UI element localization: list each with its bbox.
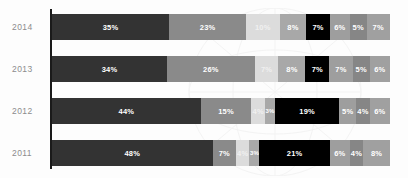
- segment-value-label: 5%: [342, 107, 353, 116]
- stacked-bar: 34%26%7%8%7%7%5%6%: [52, 56, 390, 82]
- bar-segment: 4%: [236, 140, 249, 166]
- segment-value-label: 7%: [261, 65, 272, 74]
- segment-value-label: 4%: [351, 149, 362, 158]
- stacked-bar: 48%7%4%3%21%6%4%8%: [52, 140, 390, 166]
- segment-value-label: 5%: [353, 23, 364, 32]
- category-label-2013: 2013: [12, 56, 46, 82]
- segment-value-label: 19%: [299, 107, 315, 116]
- segment-value-label: 34%: [102, 65, 118, 74]
- segment-value-label: 7%: [373, 23, 384, 32]
- bar-segment: 8%: [363, 140, 390, 166]
- segment-value-label: 4%: [237, 149, 248, 158]
- bar-segment: 15%: [201, 98, 252, 124]
- segment-value-label: 7%: [219, 149, 230, 158]
- segment-value-label: 8%: [371, 149, 382, 158]
- bar-segment: 7%: [255, 56, 279, 82]
- bar-segment: 5%: [350, 14, 367, 40]
- segment-value-label: 6%: [334, 23, 345, 32]
- bar-segment: 7%: [329, 56, 353, 82]
- bar-segment: 21%: [259, 140, 329, 166]
- segment-value-label: 21%: [287, 149, 303, 158]
- segment-value-label: 26%: [203, 65, 219, 74]
- bar-row: 201334%26%7%8%7%7%5%6%: [0, 56, 408, 82]
- segment-value-label: 48%: [125, 149, 141, 158]
- bar-segment: 48%: [52, 140, 213, 166]
- bar-segment: 5%: [353, 56, 370, 82]
- bar-segment: 4%: [251, 98, 265, 124]
- bar-segment: 3%: [265, 98, 275, 124]
- bar-row: 201148%7%4%3%21%6%4%8%: [0, 140, 408, 166]
- bar-segment: 3%: [249, 140, 259, 166]
- bar-row: 201435%23%10%8%7%6%5%7%: [0, 14, 408, 40]
- bar-segment: 4%: [350, 140, 363, 166]
- bar-segment: 5%: [339, 98, 356, 124]
- segment-value-label: 15%: [218, 107, 234, 116]
- stacked-bar-chart: 201435%23%10%8%7%6%5%7%201334%26%7%8%7%7…: [0, 0, 408, 178]
- bar-segment: 44%: [52, 98, 201, 124]
- bar-row: 201244%15%4%3%19%5%4%6%: [0, 98, 408, 124]
- segment-value-label: 6%: [334, 149, 345, 158]
- segment-value-label: 23%: [200, 23, 216, 32]
- bar-segment: 6%: [330, 14, 350, 40]
- bar-segment: 6%: [370, 56, 390, 82]
- segment-value-label: 8%: [287, 23, 298, 32]
- bar-segment: 4%: [356, 98, 370, 124]
- bar-segment: 19%: [275, 98, 339, 124]
- bar-segment: 35%: [52, 14, 169, 40]
- bar-segment: 7%: [305, 56, 329, 82]
- category-label-2014: 2014: [12, 14, 46, 40]
- bar-segment: 34%: [52, 56, 167, 82]
- segment-value-label: 3%: [265, 108, 274, 114]
- bar-segment: 7%: [306, 14, 329, 40]
- bar-segment: 8%: [278, 56, 305, 82]
- bar-segment: 7%: [213, 140, 236, 166]
- bar-segment: 8%: [280, 14, 307, 40]
- bar-segment: 6%: [330, 140, 350, 166]
- segment-value-label: 6%: [374, 65, 385, 74]
- segment-value-label: 4%: [253, 107, 264, 116]
- stacked-bar: 44%15%4%3%19%5%4%6%: [52, 98, 390, 124]
- segment-value-label: 4%: [357, 107, 368, 116]
- bar-segment: 23%: [169, 14, 246, 40]
- segment-value-label: 7%: [312, 23, 323, 32]
- bar-segment: 26%: [167, 56, 255, 82]
- segment-value-label: 35%: [103, 23, 119, 32]
- segment-value-label: 7%: [312, 65, 323, 74]
- segment-value-label: 7%: [335, 65, 346, 74]
- segment-value-label: 5%: [356, 65, 367, 74]
- segment-value-label: 44%: [119, 107, 135, 116]
- bar-segment: 7%: [367, 14, 390, 40]
- category-label-2012: 2012: [12, 98, 46, 124]
- plot-area: 201435%23%10%8%7%6%5%7%201334%26%7%8%7%7…: [0, 0, 408, 178]
- stacked-bar: 35%23%10%8%7%6%5%7%: [52, 14, 390, 40]
- segment-value-label: 10%: [255, 23, 271, 32]
- segment-value-label: 3%: [250, 150, 259, 156]
- segment-value-label: 8%: [286, 65, 297, 74]
- category-label-2011: 2011: [12, 140, 46, 166]
- segment-value-label: 6%: [374, 107, 385, 116]
- bar-segment: 10%: [246, 14, 279, 40]
- bar-segment: 6%: [370, 98, 390, 124]
